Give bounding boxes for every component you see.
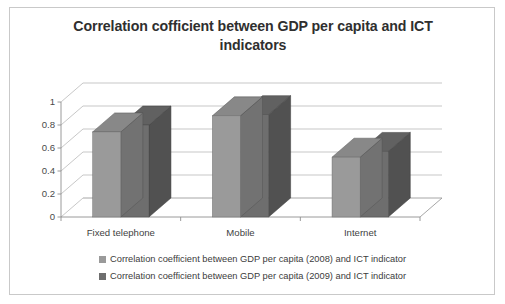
gridline-depth-5: [61, 83, 83, 102]
legend-item: Correlation coefficient between GDP per …: [10, 251, 496, 268]
chart-legend: Correlation coefficient between GDP per …: [10, 251, 496, 285]
x-axis-tick-label-fixed-telephone: Fixed telephone: [61, 227, 181, 239]
gridline-depth-1: [61, 175, 83, 194]
chart-plot-svg: [10, 66, 496, 226]
bar-fixed-telephone-series-1: [93, 113, 143, 217]
chart-plot-area: [10, 66, 496, 226]
bar-mobile-series-1: [212, 97, 262, 217]
x-axis-tick-label-mobile: Mobile: [181, 227, 301, 239]
chart-figure-frame: Correlation cofficient between GDP per c…: [9, 7, 495, 295]
gridline-depth-4: [61, 106, 83, 125]
x-axis-tick-label-internet: Internet: [300, 227, 420, 239]
chart-title: Correlation cofficient between GDP per c…: [50, 17, 456, 55]
legend-item: Correlation coefficient between GDP per …: [10, 268, 496, 285]
floor-right-edge: [420, 198, 442, 217]
gridline-depth-0: [61, 198, 83, 217]
legend-label: Correlation coefficient between GDP per …: [110, 271, 406, 282]
x-axis-tick-labels: Fixed telephoneMobileInternet: [10, 227, 496, 243]
legend-swatch-icon: [99, 273, 106, 280]
legend-swatch-icon: [99, 256, 106, 263]
gridline-depth-3: [61, 129, 83, 148]
legend-label: Correlation coefficient between GDP per …: [110, 254, 406, 265]
gridline-depth-2: [61, 152, 83, 171]
